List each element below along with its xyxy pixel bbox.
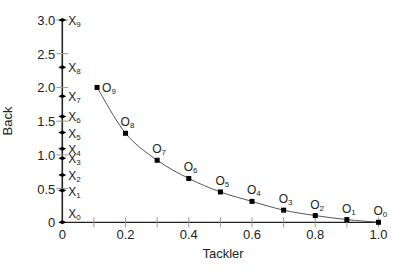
point-label-o4: O4 [247, 183, 261, 198]
square-marker-icon [313, 213, 318, 218]
chart: 00.20.40.60.81.000.51.01.52.02.53.0 O0O1… [0, 0, 410, 273]
o-curve [97, 87, 378, 222]
point-label-x0: X0 [68, 207, 81, 222]
point-label-o2: O2 [310, 198, 324, 213]
x-tick-label: 1.0 [369, 227, 387, 242]
square-marker-icon [281, 208, 286, 213]
diamond-marker-icon [58, 65, 66, 69]
y-tick-label: 0 [48, 215, 55, 230]
point-label-x6: X6 [68, 110, 81, 125]
diamond-marker-icon [58, 94, 66, 98]
square-marker-icon [155, 158, 160, 163]
y-tick-label: 1.5 [37, 114, 55, 129]
diamond-marker-icon [58, 114, 66, 118]
x-tick-label: 0.4 [180, 227, 198, 242]
diamond-marker-icon [58, 131, 66, 135]
diamond-marker-icon [58, 189, 66, 193]
o-curve-path [97, 87, 378, 222]
y-axis-label: Back [0, 106, 15, 135]
square-marker-icon [250, 199, 255, 204]
y-tick-label: 2.0 [37, 80, 55, 95]
point-label-x7: X7 [68, 90, 81, 105]
point-label-o6: O6 [184, 160, 198, 175]
point-label-x8: X8 [68, 61, 81, 76]
y-tick-label: 2.5 [37, 47, 55, 62]
y-tick-label: 0.5 [37, 182, 55, 197]
y-tick-label: 1.0 [37, 148, 55, 163]
diamond-marker-icon [58, 173, 66, 177]
point-label-o9: O9 [102, 81, 116, 96]
square-marker-icon [218, 189, 223, 194]
point-label-x5: X5 [68, 127, 81, 142]
diamond-marker-icon [58, 156, 66, 160]
x-tick-label: 0 [59, 227, 66, 242]
point-label-o3: O3 [279, 192, 293, 207]
y-tick-label: 3.0 [37, 13, 55, 28]
x-axis-label: Tackler [202, 246, 244, 261]
axes: 00.20.40.60.81.000.51.01.52.02.53.0 [37, 13, 387, 242]
point-label-o0: O0 [374, 204, 388, 219]
diamond-marker-icon [58, 18, 66, 22]
diamond-marker-icon [58, 220, 66, 224]
point-label-o8: O8 [121, 115, 135, 130]
point-label-o5: O5 [215, 174, 229, 189]
point-label-x4: X4 [68, 143, 81, 158]
point-label-x2: X2 [68, 169, 81, 184]
x-tick-label: 0.6 [243, 227, 261, 242]
diamond-marker-icon [58, 147, 66, 151]
point-label-x1: X1 [68, 185, 81, 200]
x-tick-label: 0.2 [117, 227, 135, 242]
x-tick-label: 0.8 [306, 227, 324, 242]
square-marker-icon [186, 176, 191, 181]
square-marker-icon [95, 85, 100, 90]
point-label-o7: O7 [152, 142, 166, 157]
point-label-o1: O1 [342, 202, 356, 217]
square-marker-icon [376, 220, 381, 225]
square-marker-icon [123, 131, 128, 136]
square-marker-icon [344, 217, 349, 222]
point-label-x9: X9 [68, 14, 81, 29]
chart-plot: 00.20.40.60.81.000.51.01.52.02.53.0 O0O1… [0, 0, 410, 273]
